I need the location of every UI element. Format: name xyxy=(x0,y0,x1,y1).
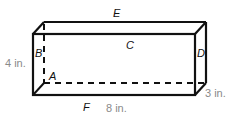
front-face xyxy=(33,34,195,95)
label-c: C xyxy=(126,39,134,51)
label-e: E xyxy=(113,7,121,19)
length-dimension: 8 in. xyxy=(106,102,127,114)
width-dimension: 3 in. xyxy=(205,87,226,99)
hidden-bottom-left-depth-edge xyxy=(33,83,44,95)
hidden-edges xyxy=(44,24,206,83)
top-left-depth-edge xyxy=(33,22,44,34)
label-a: A xyxy=(48,70,56,82)
top-right-depth-edge xyxy=(195,22,206,34)
visible-edges xyxy=(33,22,206,95)
rectangular-prism-diagram: E C B D A F 4 in. 8 in. 3 in. xyxy=(0,0,236,119)
label-d: D xyxy=(197,47,205,59)
height-dimension: 4 in. xyxy=(5,57,26,69)
label-b: B xyxy=(35,47,42,59)
label-f: F xyxy=(83,101,91,113)
